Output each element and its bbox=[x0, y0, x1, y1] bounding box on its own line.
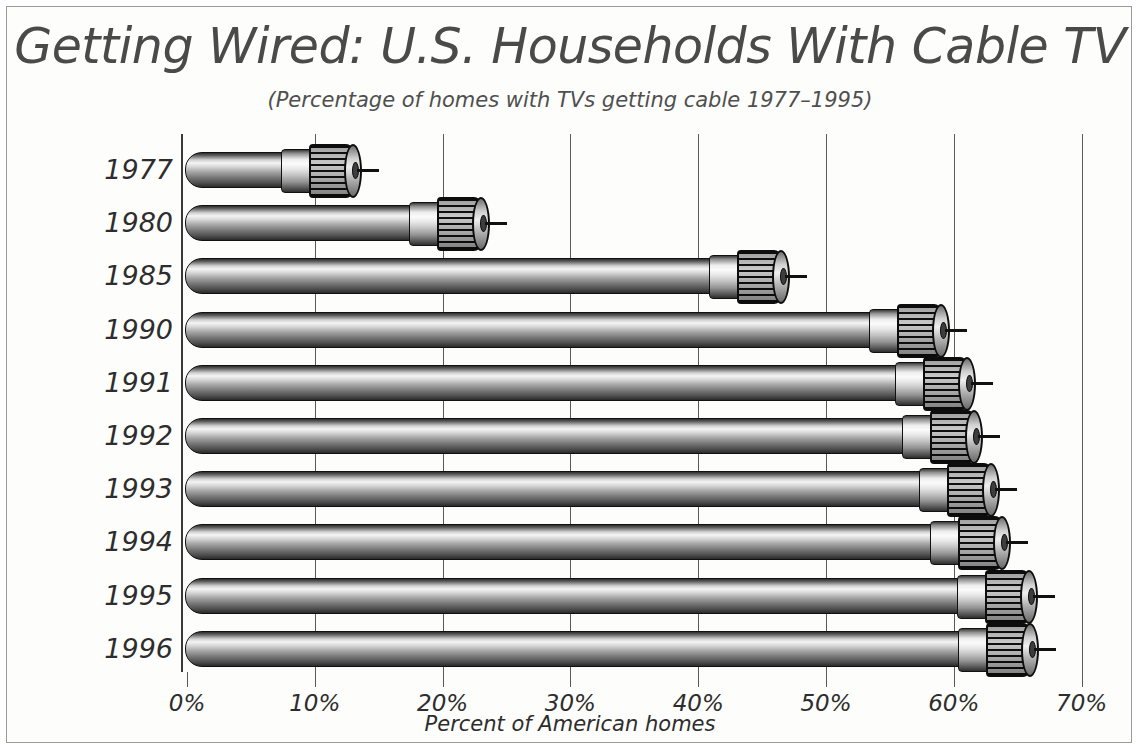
x-tick-20% bbox=[443, 672, 444, 687]
bar-row[interactable] bbox=[181, 576, 1079, 616]
cable-bar-1994 bbox=[185, 524, 938, 560]
year-label-1991: 1991 bbox=[63, 367, 173, 398]
x-axis: 0%10%20%30%40%50%60%70% bbox=[181, 672, 1079, 712]
cable-bar-1977 bbox=[185, 152, 289, 188]
connector-pin bbox=[971, 382, 993, 385]
year-label-1995: 1995 bbox=[63, 580, 173, 611]
bar-row[interactable] bbox=[181, 150, 1079, 190]
connector-pin bbox=[995, 488, 1017, 491]
year-label-1980: 1980 bbox=[63, 207, 173, 238]
cable-bar-1990 bbox=[185, 312, 877, 348]
x-tick-70% bbox=[1082, 672, 1083, 687]
connector-pin bbox=[945, 329, 967, 332]
x-tick-0% bbox=[187, 672, 188, 687]
x-axis-title: Percent of American homes bbox=[0, 712, 1140, 736]
bar-row[interactable] bbox=[181, 256, 1079, 296]
connector-pin bbox=[785, 275, 807, 278]
connector-pin bbox=[1033, 595, 1055, 598]
x-tick-60% bbox=[954, 672, 955, 687]
year-label-1996: 1996 bbox=[63, 633, 173, 664]
year-label-1977: 1977 bbox=[63, 154, 173, 185]
cable-bar-1995 bbox=[185, 578, 965, 614]
cable-bar-1980 bbox=[185, 205, 417, 241]
year-label-1990: 1990 bbox=[63, 314, 173, 345]
cable-bar-1996 bbox=[185, 631, 966, 667]
x-tick-10% bbox=[315, 672, 316, 687]
connector-pin bbox=[357, 169, 379, 172]
connector-pin bbox=[1006, 541, 1028, 544]
bar-row[interactable] bbox=[181, 203, 1079, 243]
plot-area bbox=[181, 134, 1079, 672]
x-tick-40% bbox=[698, 672, 699, 687]
connector-pin bbox=[485, 222, 507, 225]
year-label-1993: 1993 bbox=[63, 473, 173, 504]
connector-pin bbox=[1034, 648, 1056, 651]
bar-row[interactable] bbox=[181, 469, 1079, 509]
bar-row[interactable] bbox=[181, 310, 1079, 350]
bar-row[interactable] bbox=[181, 522, 1079, 562]
cable-bar-1991 bbox=[185, 365, 903, 401]
chart-title: Getting Wired: U.S. Households With Cabl… bbox=[0, 18, 1140, 75]
chart-subtitle: (Percentage of homes with TVs getting ca… bbox=[0, 88, 1140, 112]
year-label-1994: 1994 bbox=[63, 526, 173, 557]
year-label-1985: 1985 bbox=[63, 260, 173, 291]
x-tick-30% bbox=[570, 672, 571, 687]
cable-bar-1985 bbox=[185, 258, 717, 294]
bar-row[interactable] bbox=[181, 629, 1079, 669]
bar-row[interactable] bbox=[181, 416, 1079, 456]
x-tick-50% bbox=[826, 672, 827, 687]
connector-pin bbox=[978, 435, 1000, 438]
cable-bar-1992 bbox=[185, 418, 910, 454]
bar-row[interactable] bbox=[181, 363, 1079, 403]
year-label-1992: 1992 bbox=[63, 420, 173, 451]
cable-bar-1993 bbox=[185, 471, 927, 507]
gridline-70% bbox=[1082, 134, 1083, 672]
